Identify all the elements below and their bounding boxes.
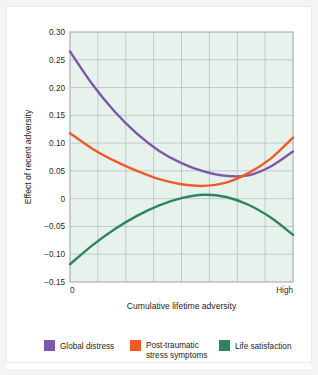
legend-label: Life satisfaction [235,342,292,351]
legend-item[interactable]: Post-traumaticstress symptoms [130,340,207,360]
legend-label-line2: stress symptoms [146,351,207,360]
legend-swatch [130,340,141,351]
chart-svg: 0.300.250.200.150.100.050−0.05−0.10−0.15… [0,0,318,375]
y-tick-label: −0.10 [44,250,65,259]
y-tick-label: −0.05 [44,222,65,231]
y-tick-label: −0.15 [44,278,65,287]
legend-label: Post-traumatic [146,341,199,350]
legend-label: Global distress [60,342,114,351]
y-axis-tick-labels: 0.300.250.200.150.100.050−0.05−0.10−0.15 [44,28,65,287]
y-tick-label: 0.15 [49,111,65,120]
x-tick-label-max: High [276,286,293,295]
x-axis-title: Cumulative lifetime adversity [127,301,237,311]
y-tick-label: 0.30 [49,28,65,37]
x-tick-label-min: 0 [70,286,75,295]
legend-swatch [44,340,55,351]
y-tick-label: 0.20 [49,84,65,93]
legend-item[interactable]: Global distress [44,340,114,351]
chart-plot-container: 0.300.250.200.150.100.050−0.05−0.10−0.15… [0,0,318,375]
legend-item[interactable]: Life satisfaction [219,340,292,351]
y-tick-label: 0.10 [49,139,65,148]
chart-legend: Global distressPost-traumaticstress symp… [44,340,292,360]
y-tick-label: 0.05 [49,167,65,176]
chart-figure: 0.300.250.200.150.100.050−0.05−0.10−0.15… [0,0,318,375]
legend-swatch [219,340,230,351]
y-tick-label: 0.25 [49,56,65,65]
y-tick-label: 0 [60,195,65,204]
y-axis-title: Effect of recent adversity [23,109,33,204]
